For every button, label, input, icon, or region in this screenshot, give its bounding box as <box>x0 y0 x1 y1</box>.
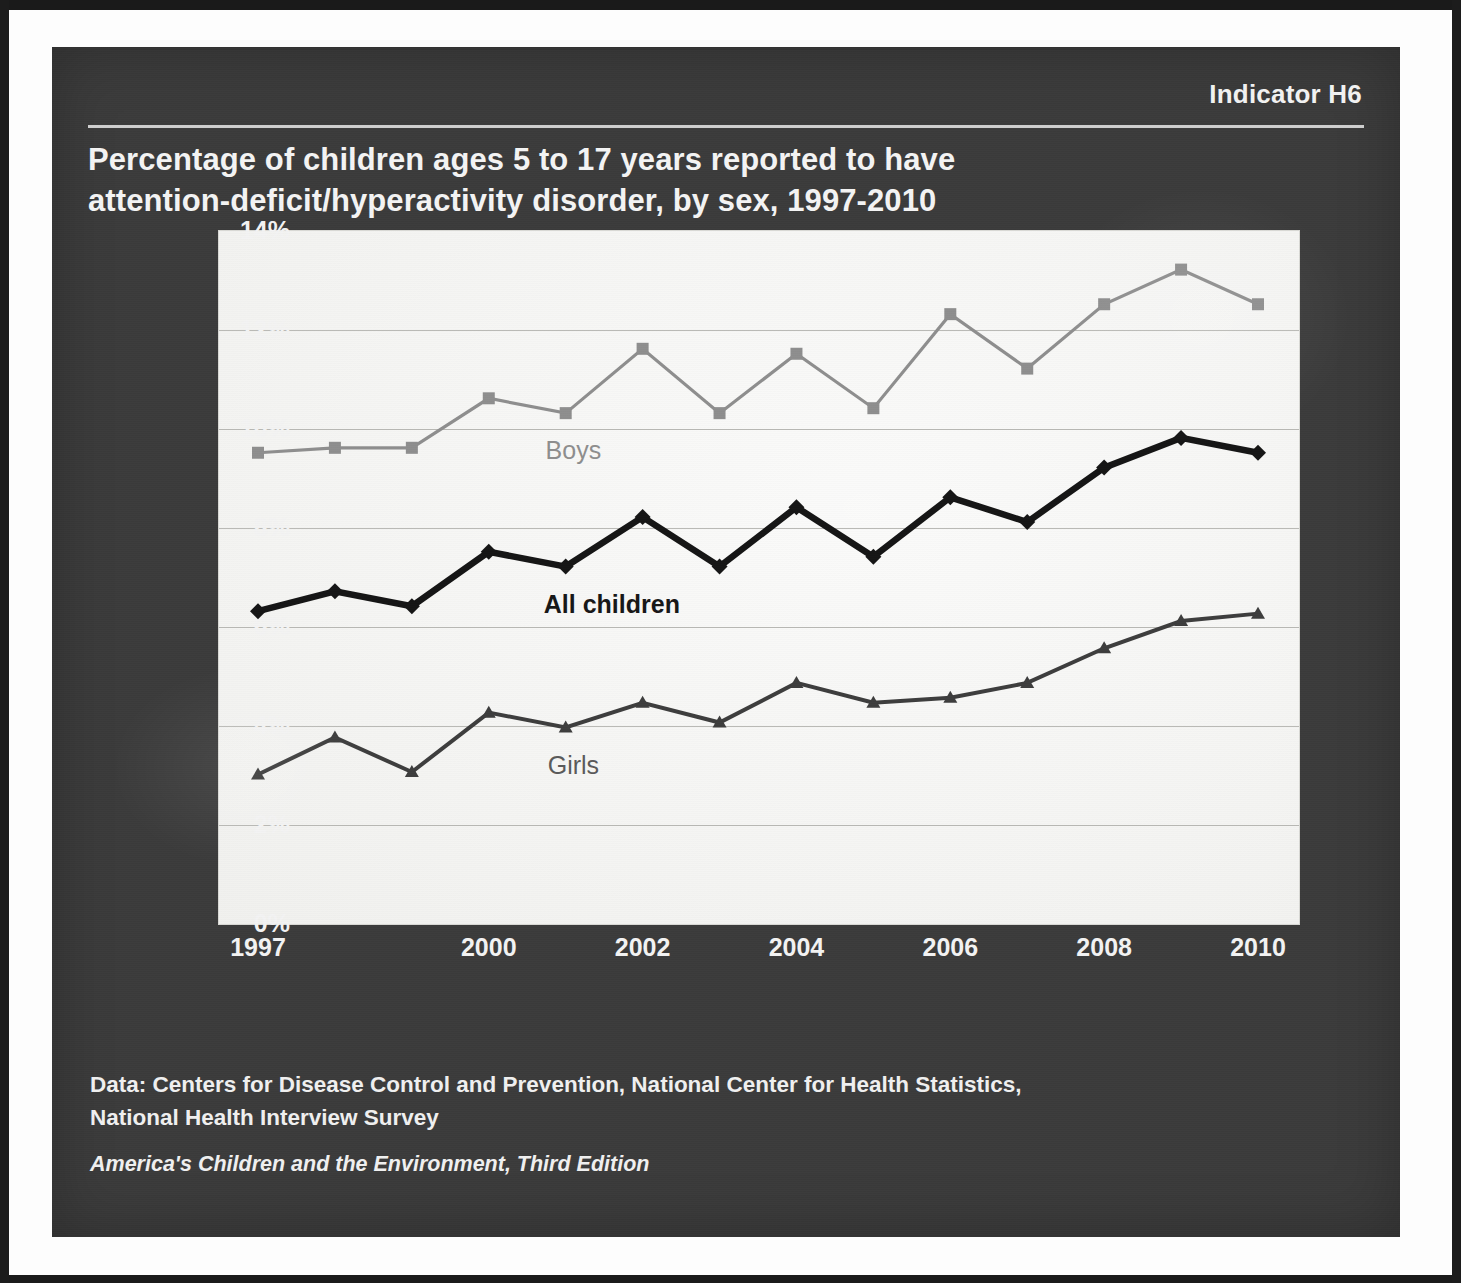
data-point-marker <box>1021 363 1033 375</box>
x-axis-tick-label: 1997 <box>198 933 318 962</box>
data-point-marker <box>789 676 803 688</box>
data-point-marker <box>636 696 650 708</box>
data-point-marker <box>406 442 418 454</box>
data-point-marker <box>483 392 495 404</box>
page-edge-top <box>0 0 1461 10</box>
x-axis-tick-label: 2008 <box>1044 933 1164 962</box>
data-point-marker <box>790 348 802 360</box>
page-edge-left <box>0 0 9 1283</box>
data-point-marker <box>944 308 956 320</box>
data-point-marker <box>1252 298 1264 310</box>
chart: 0%2%4%6%8%10%12%14% 19972000200220042006… <box>52 47 1400 1237</box>
publication-edition: America's Children and the Environment, … <box>90 1152 1320 1177</box>
data-point-marker <box>250 603 266 619</box>
x-axis-tick-label: 2006 <box>890 933 1010 962</box>
data-point-marker <box>867 402 879 414</box>
series-label-boys: Boys <box>546 436 602 465</box>
figure-footer: Data: Centers for Disease Control and Pr… <box>90 1069 1320 1177</box>
series-label-girls: Girls <box>548 750 599 779</box>
figure-panel: Indicator H6 Percentage of children ages… <box>52 47 1400 1237</box>
series-label-all-children: All children <box>544 589 680 618</box>
data-point-marker <box>1250 445 1266 461</box>
series-line-girls <box>258 614 1258 775</box>
data-point-marker <box>1175 264 1187 276</box>
data-point-marker <box>329 442 341 454</box>
data-point-marker <box>637 343 649 355</box>
data-point-marker <box>327 583 343 599</box>
x-axis-tick-label: 2010 <box>1198 933 1318 962</box>
page-edge-right <box>1452 0 1461 1283</box>
x-axis-tick-label: 2002 <box>583 933 703 962</box>
series-line-boys <box>258 270 1258 453</box>
x-axis-tick-label: 2004 <box>736 933 856 962</box>
data-point-marker <box>252 447 264 459</box>
series-lines <box>218 230 1298 923</box>
source-line-2: National Health Interview Survey <box>90 1105 439 1130</box>
x-axis-tick-label: 2000 <box>429 933 549 962</box>
data-source: Data: Centers for Disease Control and Pr… <box>90 1069 1320 1134</box>
data-point-marker <box>714 407 726 419</box>
scanned-page: Indicator H6 Percentage of children ages… <box>0 0 1461 1283</box>
data-point-marker <box>560 407 572 419</box>
source-line-1: Data: Centers for Disease Control and Pr… <box>90 1072 1021 1097</box>
data-point-marker <box>328 730 342 742</box>
page-edge-bottom <box>0 1275 1461 1283</box>
data-point-marker <box>1098 298 1110 310</box>
